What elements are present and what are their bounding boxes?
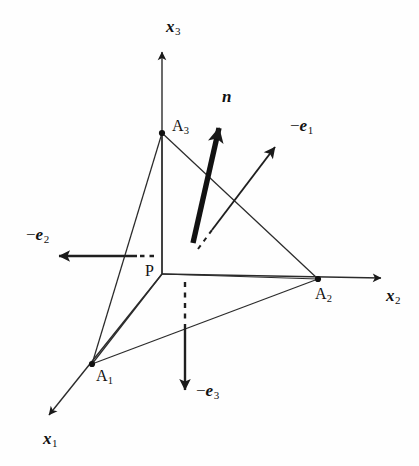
axis-label-x2: x2 [386,287,401,306]
figure-canvas: x3 x2 x1 A3 A2 A1 P n −e1 −e2 −e3 [0,0,419,466]
edge-a3-a2 [162,133,318,279]
vertex-dot-a3 [159,130,165,136]
vertex-label-a1: A1 [96,368,113,387]
vertex-dot-a1 [89,361,95,367]
basis-vector-label-minus-e2: −e2 [26,226,49,245]
vertex-label-a3: A3 [172,118,189,137]
axis-label-x3: x3 [166,18,181,37]
edge-a1-a2 [92,279,318,364]
basis-vector-minus-e1-hidden-tail [198,230,212,249]
basis-vector-label-minus-e3: −e3 [196,382,219,401]
axis-label-x1: x1 [43,430,58,449]
coordinate-axes [49,52,381,415]
vertex-label-a2: A2 [315,286,332,305]
basis-vector-label-minus-e1: −e1 [290,117,313,136]
normal-vector-label-n: n [222,88,231,105]
edge-a3-a1 [92,133,162,364]
vertex-dot-a2 [315,276,321,282]
origin-label-p: P [145,263,154,279]
tetrahedron-edges [92,133,318,364]
